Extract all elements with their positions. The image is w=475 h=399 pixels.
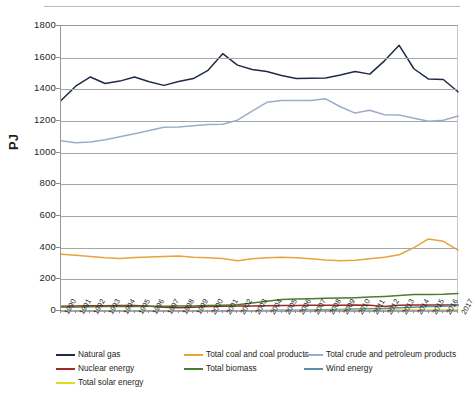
chart-legend: Natural gasTotal coal and coal productsT…: [56, 350, 460, 394]
legend-item-total-crude-and-petroleum-products[interactable]: Total crude and petroleum products: [304, 350, 456, 359]
x-tick-mark-1995: [134, 310, 135, 313]
legend-item-total-coal-and-coal-products[interactable]: Total coal and coal products: [184, 350, 309, 359]
legend-item-label: Total solar energy: [78, 378, 144, 387]
legend-item-label: Nuclear energy: [78, 364, 134, 373]
x-tick-mark-2008: [325, 310, 326, 313]
x-tick-mark-1991: [75, 310, 76, 313]
x-tick-mark-2000: [207, 310, 208, 313]
x-tick-mark-1994: [119, 310, 120, 313]
legend-swatch-icon: [184, 354, 203, 356]
legend-item-label: Total crude and petroleum products: [326, 350, 456, 359]
x-axis-tick-labels: 1990199119921993199419951996199719981999…: [60, 312, 458, 352]
x-tick-mark-2012: [383, 310, 384, 313]
gridline-400: [61, 248, 457, 249]
gridline-1600: [61, 58, 457, 59]
plot-area-wrapper: 1990199119921993199419951996199719981999…: [0, 0, 464, 330]
legend-item-label: Total biomass: [206, 364, 257, 373]
x-tick-mark-2011: [369, 310, 370, 313]
series-line-total-coal-and-coal-products: [61, 239, 458, 261]
legend-swatch-icon: [56, 354, 75, 356]
x-tick-label-2017: 2017: [460, 298, 475, 316]
x-tick-mark-2013: [398, 310, 399, 313]
x-tick-mark-2014: [413, 310, 414, 313]
x-tick-mark-2006: [295, 310, 296, 313]
legend-swatch-icon: [304, 354, 323, 356]
x-tick-mark-1992: [89, 310, 90, 313]
legend-item-label: Wind energy: [326, 364, 373, 373]
series-lines: [61, 26, 459, 311]
legend-item-natural-gas[interactable]: Natural gas: [56, 350, 120, 359]
x-tick-mark-1996: [148, 310, 149, 313]
x-tick-mark-1998: [178, 310, 179, 313]
legend-swatch-icon: [56, 368, 75, 370]
legend-item-total-solar-energy[interactable]: Total solar energy: [56, 378, 144, 387]
legend-item-nuclear-energy[interactable]: Nuclear energy: [56, 364, 134, 373]
gridline-200: [61, 279, 457, 280]
legend-item-label: Natural gas: [78, 350, 120, 359]
legend-swatch-icon: [56, 382, 75, 384]
gridline-600: [61, 216, 457, 217]
x-tick-mark-2007: [310, 310, 311, 313]
x-tick-mark-2001: [222, 310, 223, 313]
series-line-natural-gas: [61, 45, 458, 100]
gridline-1000: [61, 153, 457, 154]
legend-item-label: Total coal and coal products: [206, 350, 309, 359]
gridline-1400: [61, 89, 457, 90]
x-tick-mark-1999: [192, 310, 193, 313]
x-tick-mark-2004: [266, 310, 267, 313]
gridline-800: [61, 184, 457, 185]
gridline-1200: [61, 121, 457, 122]
x-tick-mark-2010: [354, 310, 355, 313]
legend-swatch-icon: [184, 368, 203, 370]
x-tick-mark-1993: [104, 310, 105, 313]
x-tick-mark-2002: [236, 310, 237, 313]
x-tick-mark-1990: [60, 310, 61, 313]
legend-item-total-biomass[interactable]: Total biomass: [184, 364, 257, 373]
plot-area: [60, 25, 458, 310]
legend-swatch-icon: [304, 368, 323, 370]
x-tick-mark-2015: [428, 310, 429, 313]
x-tick-mark-2016: [442, 310, 443, 313]
legend-item-wind-energy[interactable]: Wind energy: [304, 364, 373, 373]
x-tick-mark-1997: [163, 310, 164, 313]
x-tick-mark-2017: [457, 310, 458, 313]
x-tick-mark-2005: [281, 310, 282, 313]
x-tick-mark-2003: [251, 310, 252, 313]
x-tick-mark-2009: [339, 310, 340, 313]
